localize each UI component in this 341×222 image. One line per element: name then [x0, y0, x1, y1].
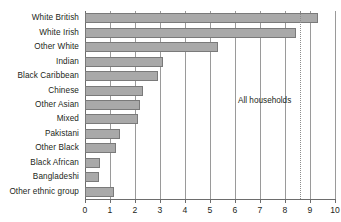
gridline-4 — [185, 11, 186, 199]
bar — [85, 143, 116, 153]
category-label: Other Black — [35, 144, 79, 152]
tick-label: 9 — [308, 206, 313, 215]
category-axis-labels: White BritishWhite IrishOther WhiteIndia… — [0, 0, 83, 222]
category-label: White British — [32, 14, 79, 22]
gridline-10 — [335, 11, 336, 199]
tick-label: 2 — [133, 206, 138, 215]
gridline-8 — [285, 11, 286, 199]
gridline-9 — [310, 11, 311, 199]
tick-label: 10 — [330, 206, 340, 215]
bar — [85, 100, 140, 110]
tick-mark — [260, 199, 261, 203]
bar — [85, 158, 100, 168]
bar — [85, 129, 120, 139]
tick-mark — [135, 199, 136, 203]
plot-area: All households — [85, 11, 335, 199]
category-label: Black African — [30, 159, 79, 167]
tick-mark — [285, 199, 286, 203]
tick-mark — [310, 199, 311, 203]
all-households-annotation-label: All households — [238, 97, 291, 105]
bar — [85, 71, 158, 81]
category-label: Bangladeshi — [33, 173, 79, 181]
bar — [85, 114, 138, 124]
bar — [85, 86, 143, 96]
tick-mark — [185, 199, 186, 203]
x-axis: 012345678910 — [85, 199, 335, 222]
tick-label: 3 — [158, 206, 163, 215]
tick-label: 7 — [258, 206, 263, 215]
category-label: Chinese — [48, 87, 79, 95]
bar — [85, 28, 296, 38]
tick-label: 4 — [183, 206, 188, 215]
category-label: White Irish — [39, 29, 79, 37]
category-label: Black Caribbean — [17, 72, 79, 80]
category-label: Other White — [34, 43, 79, 51]
tick-mark — [160, 199, 161, 203]
gridline-7 — [260, 11, 261, 199]
bar-chart: White BritishWhite IrishOther WhiteIndia… — [0, 0, 341, 222]
tick-mark — [210, 199, 211, 203]
bar — [85, 172, 99, 182]
tick-label: 6 — [233, 206, 238, 215]
gridline-5 — [210, 11, 211, 199]
tick-label: 1 — [108, 206, 113, 215]
all-households-reference-line — [300, 11, 301, 199]
tick-mark — [335, 199, 336, 203]
bar — [85, 187, 114, 197]
category-label: Mixed — [57, 115, 79, 123]
bar — [85, 13, 318, 23]
tick-label: 8 — [283, 206, 288, 215]
tick-label: 5 — [208, 206, 213, 215]
gridline-6 — [235, 11, 236, 199]
tick-mark — [110, 199, 111, 203]
tick-mark — [235, 199, 236, 203]
bar — [85, 57, 163, 67]
category-label: Pakistani — [45, 130, 79, 138]
gridline-3 — [160, 11, 161, 199]
tick-mark — [85, 199, 86, 203]
category-label: Other Asian — [35, 101, 79, 109]
bar — [85, 42, 218, 52]
category-label: Other ethnic group — [9, 188, 79, 196]
category-label: Indian — [56, 58, 79, 66]
tick-label: 0 — [83, 206, 88, 215]
